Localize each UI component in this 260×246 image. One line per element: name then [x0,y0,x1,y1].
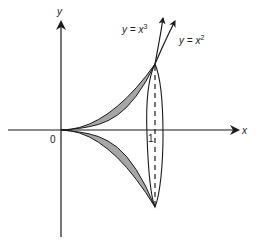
label-y-x3-exp: 3 [143,23,147,30]
y-axis-label: y [56,6,63,17]
shaded-region-upper [61,64,155,130]
volume-of-revolution-diagram: y x 0 1 y = x3 y = x2 [0,0,260,246]
label-y-x2: y = x2 [178,34,204,46]
shaded-region-lower [61,130,155,207]
label-y-x3-base: y = x [121,24,144,35]
curve-y-x2 [155,21,175,64]
label-y-x3: y = x3 [121,23,147,35]
label-y-x2-exp: 2 [200,34,204,41]
origin-label: 0 [50,134,56,145]
x-axis-label: x [241,125,248,136]
label-y-x2-base: y = x [178,35,201,46]
curve-y-x3 [155,18,163,64]
x-tick-label-1: 1 [148,133,154,144]
